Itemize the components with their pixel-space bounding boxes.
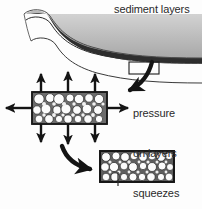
pressure-line-2: on layers (133, 147, 179, 160)
sediment-compaction-diagram: sediment layers pressure on layers squee… (0, 0, 202, 209)
crystallisation-caption: salts crystallise between sedimentary pa… (0, 186, 202, 209)
curved-arrow-to-crystallisation (62, 146, 90, 169)
compaction-particle-box (32, 92, 107, 124)
sediment-callout-rect (129, 62, 159, 74)
sediment-layers-label: sediment layers (114, 3, 190, 16)
pressure-line-1: pressure (133, 107, 179, 120)
